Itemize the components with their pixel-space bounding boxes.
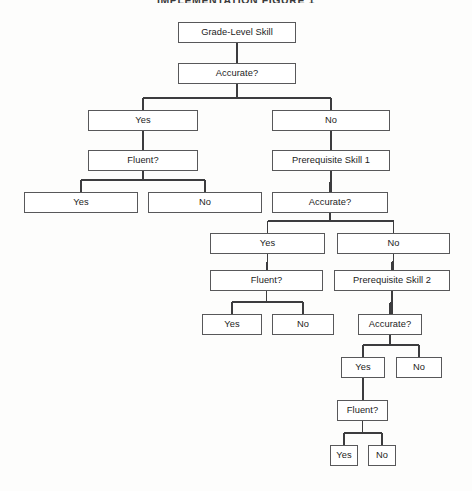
flowchart-node-n6: Prerequisite Skill 1 xyxy=(272,150,390,171)
flowchart-node-n21: No xyxy=(368,445,396,466)
flowchart-node-n15: No xyxy=(272,314,334,335)
flowchart-node-label: Yes xyxy=(135,116,150,125)
flowchart-node-n2: Accurate? xyxy=(178,63,296,84)
flowchart-node-n17: Yes xyxy=(341,357,385,378)
flowchart-node-label: Prerequisite Skill 2 xyxy=(353,276,431,285)
flowchart-node-n9: Accurate? xyxy=(272,192,388,213)
flowchart-node-label: Yes xyxy=(224,320,239,329)
flowchart-node-n4: No xyxy=(272,110,390,131)
flowchart-node-n20: Yes xyxy=(330,445,358,466)
flowchart-node-label: Yes xyxy=(73,198,88,207)
flowchart-node-label: No xyxy=(199,198,211,207)
flowchart-node-n5: Fluent? xyxy=(88,150,198,171)
flowchart-node-n16: Accurate? xyxy=(358,314,422,335)
flowchart-canvas: IMPLEMENTATION FIGURE 1 Grade-Level Skil… xyxy=(0,0,472,491)
flowchart-node-n19: Fluent? xyxy=(337,400,388,421)
flowchart-node-n8: No xyxy=(148,192,262,213)
flowchart-node-label: Fluent? xyxy=(127,156,158,165)
flowchart-node-n11: No xyxy=(337,233,450,254)
flowchart-node-label: Grade-Level Skill xyxy=(201,28,273,37)
flowchart-node-label: No xyxy=(297,320,309,329)
flowchart-node-n12: Fluent? xyxy=(210,270,323,291)
flowchart-node-n14: Yes xyxy=(202,314,262,335)
flowchart-node-label: No xyxy=(325,116,337,125)
flowchart-node-label: Accurate? xyxy=(216,69,258,78)
flowchart-node-label: No xyxy=(388,239,400,248)
flowchart-node-n10: Yes xyxy=(210,233,325,254)
flowchart-node-n1: Grade-Level Skill xyxy=(178,22,296,43)
flowchart-node-label: Accurate? xyxy=(309,198,351,207)
flowchart-node-label: No xyxy=(413,363,425,372)
flowchart-node-label: Fluent? xyxy=(251,276,282,285)
flowchart-node-label: Yes xyxy=(336,451,351,460)
flowchart-node-n3: Yes xyxy=(88,110,198,131)
flowchart-node-n18: No xyxy=(396,357,442,378)
flowchart-node-label: Yes xyxy=(355,363,370,372)
flowchart-node-n13: Prerequisite Skill 2 xyxy=(334,270,450,291)
flowchart-node-label: Prerequisite Skill 1 xyxy=(292,156,370,165)
flowchart-node-label: Fluent? xyxy=(347,406,378,415)
flowchart-node-label: Accurate? xyxy=(369,320,411,329)
flowchart-node-label: No xyxy=(376,451,388,460)
flowchart-node-n7: Yes xyxy=(24,192,138,213)
flowchart-node-label: Yes xyxy=(260,239,275,248)
